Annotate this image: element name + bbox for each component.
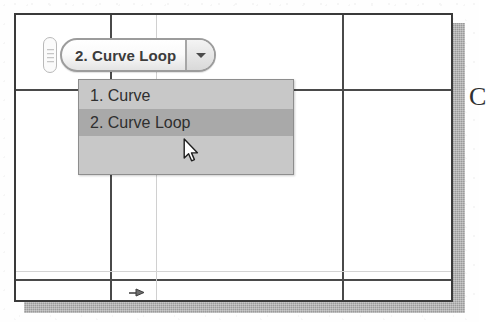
combo-box-control[interactable]: 2. Curve Loop bbox=[60, 38, 216, 72]
reference-line-horizontal bbox=[16, 271, 451, 272]
page-edge-glyph: C bbox=[469, 84, 486, 110]
grip-line bbox=[47, 61, 54, 62]
grip-line bbox=[47, 49, 54, 50]
dropdown-list[interactable]: 1. Curve 2. Curve Loop bbox=[78, 79, 294, 175]
dropdown-empty-area bbox=[79, 136, 293, 174]
drag-grip-handle[interactable] bbox=[43, 37, 57, 73]
chevron-down-icon bbox=[196, 53, 206, 58]
dropdown-item-curve[interactable]: 1. Curve bbox=[79, 82, 293, 109]
dimension-arrow-icon bbox=[128, 287, 146, 298]
dropdown-item-curve-loop[interactable]: 2. Curve Loop bbox=[79, 109, 293, 136]
combo-box-value: 2. Curve Loop bbox=[62, 40, 185, 70]
grip-line bbox=[47, 53, 54, 54]
grip-line bbox=[47, 57, 54, 58]
command-combo-box[interactable]: 2. Curve Loop bbox=[43, 37, 216, 73]
construction-line-horizontal-lower bbox=[16, 279, 451, 281]
combo-box-dropdown-button[interactable] bbox=[185, 40, 214, 70]
construction-line-vertical-right bbox=[342, 15, 344, 300]
